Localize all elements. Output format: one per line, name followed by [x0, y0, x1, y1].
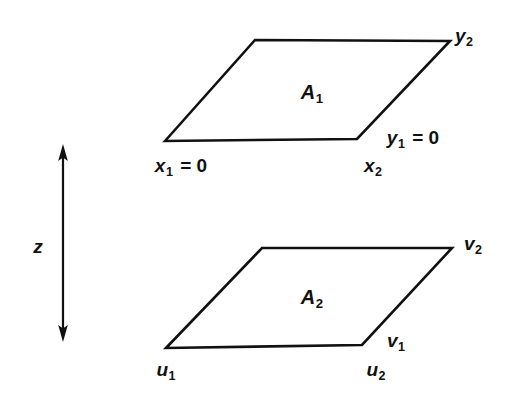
z-axis-label-text: z [33, 236, 43, 257]
vertex-label-v2: v2 [464, 234, 482, 256]
edge-label-y1-base: y [387, 127, 398, 148]
edge-label-v1: v1 [387, 331, 405, 353]
vertex-label-x1-base: x [155, 155, 166, 176]
vertex-label-y2-subscript: 2 [466, 34, 473, 48]
edge-label-y1-subscript: 1 [397, 136, 404, 150]
area-label-A1: A1 [301, 82, 323, 105]
vertex-label-y2-base: y [455, 25, 466, 46]
vertex-label-x2-subscript: 2 [375, 164, 382, 178]
area-label-A2-subscript: 2 [315, 295, 323, 310]
edge-label-y1: y1 = 0 [387, 128, 439, 150]
vertex-label-y2: y2 [455, 26, 473, 48]
vertex-label-x1-subscript: 1 [165, 164, 172, 178]
edge-label-v1-subscript: 1 [398, 339, 405, 353]
vertex-label-u1: u1 [156, 360, 175, 382]
vertex-label-x2: x2 [364, 156, 382, 178]
area-label-A2-base: A [301, 286, 315, 308]
edge-label-y1-equation: = 0 [405, 127, 439, 148]
area-label-A1-subscript: 1 [315, 90, 323, 105]
vertex-label-x1: x1 = 0 [155, 156, 207, 178]
z-axis-label: z [33, 237, 43, 256]
edge-label-v1-base: v [387, 330, 398, 351]
vertex-label-u2-base: u [366, 359, 378, 380]
vertex-label-x1-equation: = 0 [173, 155, 207, 176]
area-label-A1-base: A [301, 81, 315, 103]
vertex-label-u1-base: u [156, 359, 168, 380]
area-label-A2: A2 [301, 287, 323, 310]
diagram-vector-layer [0, 0, 517, 410]
vertex-label-v2-base: v [464, 233, 475, 254]
diagram-canvas: z A1 x1 = 0 x2 y1 = 0 y2 A2 u1 u2 v1 v2 [0, 0, 517, 410]
vertex-label-u2-subscript: 2 [378, 368, 385, 382]
vertex-label-u1-subscript: 1 [168, 368, 175, 382]
vertex-label-x2-base: x [364, 155, 375, 176]
z-axis-arrow [58, 144, 68, 342]
vertex-label-v2-subscript: 2 [475, 242, 482, 256]
vertex-label-u2: u2 [366, 360, 385, 382]
